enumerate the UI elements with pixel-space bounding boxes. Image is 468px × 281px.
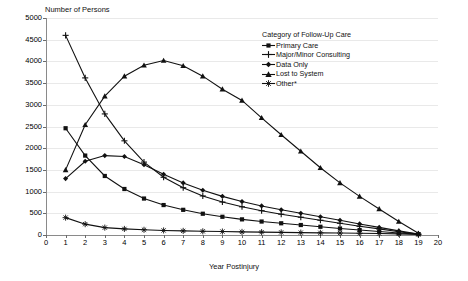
data-point-square xyxy=(201,212,205,216)
data-point-square xyxy=(162,203,166,207)
x-axis-tick-mark xyxy=(66,235,67,238)
x-axis-tick-mark xyxy=(438,235,439,238)
x-axis-tick-label: 11 xyxy=(258,239,266,247)
legend-marker-triangle-icon xyxy=(262,70,275,79)
x-axis-tick-label: 15 xyxy=(336,239,344,247)
x-axis-tick-label: 19 xyxy=(414,239,422,247)
legend-entries: Primary CareMajor/Minor ConsultingData O… xyxy=(262,41,351,89)
data-point-star xyxy=(259,229,265,235)
data-point-plus xyxy=(259,208,265,214)
x-axis-tick-label: 6 xyxy=(162,239,166,247)
legend-item-other[interactable]: Other* xyxy=(262,79,351,89)
x-axis-tick-label: 10 xyxy=(238,239,246,247)
data-point-star xyxy=(278,229,284,235)
legend-marker-square-icon xyxy=(262,41,275,50)
x-axis-tick-mark xyxy=(222,235,223,238)
data-point-square xyxy=(240,217,244,221)
data-point-plus xyxy=(63,32,69,38)
y-axis-tick-label: 1500 xyxy=(25,166,42,174)
data-point-star xyxy=(82,221,88,227)
legend-label: Major/Minor Consulting xyxy=(276,50,350,60)
data-point-star xyxy=(121,226,127,232)
x-axis-tick-mark xyxy=(105,235,106,238)
y-axis-tick-label: 0 xyxy=(38,231,42,239)
data-point-triangle xyxy=(161,58,167,63)
data-point-square xyxy=(318,225,322,229)
x-axis-tick-label: 3 xyxy=(103,239,107,247)
data-point-star xyxy=(102,225,108,231)
legend-marker-star-icon xyxy=(262,79,275,88)
legend-label: Lost to System xyxy=(276,69,324,79)
data-point-diamond xyxy=(220,194,225,199)
y-axis-tick-label: 3000 xyxy=(25,101,42,109)
data-point-plus xyxy=(239,204,245,210)
legend-label: Data Only xyxy=(276,60,308,70)
data-point-diamond xyxy=(279,207,284,212)
data-point-diamond xyxy=(266,62,272,68)
data-point-square xyxy=(181,208,185,212)
data-point-star xyxy=(219,228,225,234)
legend-item-primary-care[interactable]: Primary Care xyxy=(262,41,351,51)
data-point-star xyxy=(317,230,323,236)
y-axis-tick-label: 3500 xyxy=(25,79,42,87)
x-axis-tick-mark xyxy=(183,235,184,238)
data-point-triangle xyxy=(376,206,382,211)
data-series-layer xyxy=(46,18,438,235)
y-axis-tick-label: 500 xyxy=(29,209,42,217)
data-point-square xyxy=(299,223,303,227)
data-point-diamond xyxy=(102,153,107,158)
x-axis-tick-label: 1 xyxy=(64,239,68,247)
x-axis-tick-label: 5 xyxy=(142,239,146,247)
data-point-diamond xyxy=(298,211,303,216)
legend-label: Other* xyxy=(276,79,297,89)
series-line xyxy=(66,156,419,235)
x-axis-tick-label: 7 xyxy=(181,239,185,247)
data-point-square xyxy=(64,126,68,130)
x-axis-tick-label: 18 xyxy=(395,239,403,247)
legend-marker-plus-icon xyxy=(262,50,275,59)
data-point-triangle xyxy=(220,86,226,91)
data-point-plus xyxy=(200,193,206,199)
data-point-plus xyxy=(265,52,272,59)
legend-item-lost-to-system[interactable]: Lost to System xyxy=(262,69,351,79)
x-axis-tick-label: 16 xyxy=(355,239,363,247)
data-point-diamond xyxy=(259,203,264,208)
x-axis-tick-label: 17 xyxy=(375,239,383,247)
x-axis-tick-mark xyxy=(242,235,243,238)
data-point-diamond xyxy=(318,214,323,219)
series-major-minor-consulting xyxy=(63,32,422,237)
x-axis-tick-label: 14 xyxy=(316,239,324,247)
y-axis-tick-label: 4000 xyxy=(25,57,42,65)
data-point-square xyxy=(103,174,107,178)
data-point-triangle xyxy=(63,167,69,172)
data-point-square xyxy=(260,219,264,223)
x-axis-tick-mark xyxy=(124,235,125,238)
x-axis-tick-mark xyxy=(85,235,86,238)
legend: Category of Follow-Up Care Primary CareM… xyxy=(262,30,351,89)
data-point-diamond xyxy=(181,180,186,185)
series-primary-care xyxy=(64,126,421,236)
data-point-star xyxy=(141,227,147,233)
y-axis-tick-label: 4500 xyxy=(25,36,42,44)
x-axis-tick-label: 8 xyxy=(201,239,205,247)
legend-item-data-only[interactable]: Data Only xyxy=(262,60,351,70)
x-axis-tick-mark xyxy=(203,235,204,238)
x-axis-tick-label: 2 xyxy=(83,239,87,247)
series-data-only xyxy=(63,153,421,237)
y-axis-title: Number of Persons xyxy=(45,5,110,14)
data-point-star xyxy=(180,228,186,234)
legend-item-major-minor-consulting[interactable]: Major/Minor Consulting xyxy=(262,50,351,60)
legend-marker-diamond-icon xyxy=(262,60,275,69)
data-point-plus xyxy=(219,199,225,205)
data-point-diamond xyxy=(200,188,205,193)
data-point-plus xyxy=(82,75,88,81)
x-axis-tick-mark xyxy=(164,235,165,238)
x-axis-tick-label: 9 xyxy=(220,239,224,247)
data-point-star xyxy=(396,231,402,237)
data-point-plus xyxy=(180,185,186,191)
x-axis-tick-label: 0 xyxy=(44,239,48,247)
data-point-diamond xyxy=(122,154,127,159)
plot-area: 0500100015002000250030003500400045005000… xyxy=(46,18,438,235)
data-point-star xyxy=(298,230,304,236)
data-point-square xyxy=(338,226,342,230)
